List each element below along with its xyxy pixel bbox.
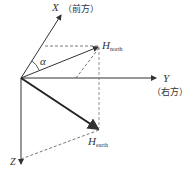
x-axis-label: X xyxy=(52,2,59,13)
dashed-diagonal xyxy=(76,48,99,78)
x-axis-note: （前方） xyxy=(63,5,99,14)
alpha-arc xyxy=(32,61,39,70)
coordinate-diagram: X （前方） Y （右方） Z α Hnorth Hearth xyxy=(0,0,191,180)
alpha-label: α xyxy=(40,56,46,67)
h-earth-vector xyxy=(21,78,98,129)
x-axis xyxy=(21,15,61,78)
z-axis-label: Z xyxy=(10,157,16,167)
h-earth-label: Hearth xyxy=(88,136,108,148)
h-north-vector xyxy=(21,47,98,78)
h-north-label: Hnorth xyxy=(102,40,123,52)
y-axis-note: （右方） xyxy=(152,88,188,97)
y-axis-label: Y xyxy=(163,73,169,84)
